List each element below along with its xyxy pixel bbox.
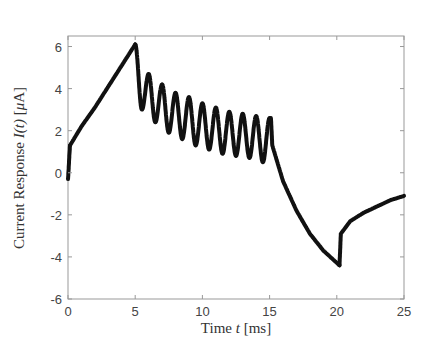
x-tick-label: 20 (330, 304, 344, 319)
y-tick-label: -2 (50, 208, 62, 223)
chart: 0510152025 -6-4-20246 Time t [ms] Curren… (0, 0, 428, 356)
y-tick-label: 4 (55, 82, 62, 97)
x-tick-label: 15 (262, 304, 276, 319)
y-tick-label: -4 (50, 250, 62, 265)
x-tick-label: 25 (397, 304, 411, 319)
y-tick-label: 6 (55, 40, 62, 55)
x-tick-label: 0 (64, 304, 71, 319)
plot-area (68, 36, 404, 299)
y-tick-label: -6 (50, 292, 62, 307)
y-tick-label: 2 (55, 124, 62, 139)
y-axis-label: Current Response I(t) [μA] (11, 87, 28, 249)
x-axis-label: Time t [ms] (201, 320, 271, 336)
data-trace (68, 145, 70, 179)
axes-box (68, 36, 404, 299)
y-tick-label: 0 (55, 166, 62, 181)
x-tick-label: 10 (195, 304, 209, 319)
x-tick-label: 5 (132, 304, 139, 319)
